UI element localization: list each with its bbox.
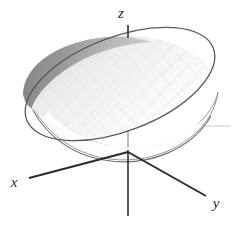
figure-container: z x y bbox=[0, 0, 237, 227]
paraboloid-figure: z x y bbox=[0, 0, 237, 227]
x-axis-line bbox=[29, 152, 128, 178]
y-axis-line bbox=[128, 152, 206, 196]
x-axis-label: x bbox=[10, 174, 18, 190]
paraboloid-surface bbox=[10, 4, 230, 163]
y-axis-label: y bbox=[211, 195, 220, 211]
z-axis-label: z bbox=[117, 5, 124, 21]
